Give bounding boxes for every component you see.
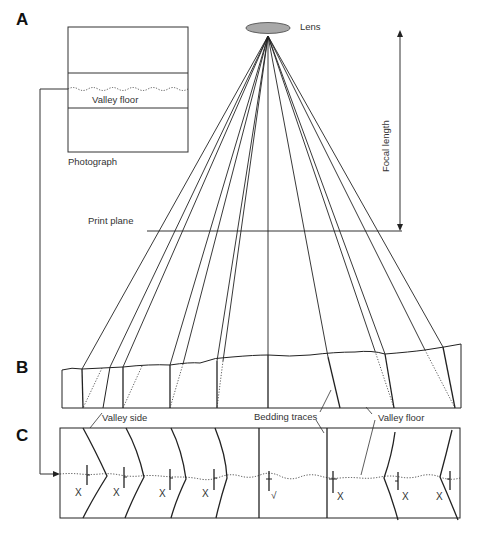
terrain-block-b: [62, 344, 461, 408]
ray-fan: [82, 36, 443, 369]
panel-label-c: C: [16, 426, 28, 446]
map-block-c: [60, 428, 460, 520]
photograph-label: Photograph: [68, 156, 117, 167]
arrow-up-icon: [397, 30, 403, 37]
arrowhead-icon: [53, 471, 60, 477]
focal-length-label: Focal length: [380, 120, 391, 172]
panel-label-b: B: [16, 358, 28, 378]
panel-label-a: A: [16, 10, 28, 30]
mark-x: X: [202, 488, 209, 499]
print-plane-label: Print plane: [88, 215, 133, 226]
mark-check: √: [271, 490, 277, 501]
valley-side-label: Valley side: [102, 412, 147, 423]
bedding-traces-label: Bedding traces: [254, 411, 317, 422]
photo-valley-floor-label: Valley floor: [92, 94, 138, 105]
arrow-down-icon: [397, 224, 403, 231]
lens-label: Lens: [300, 21, 321, 32]
valley-floor-label: Valley floor: [378, 412, 424, 423]
mark-x: X: [159, 488, 166, 499]
connector-arrow: [40, 89, 68, 474]
mark-x: X: [113, 487, 120, 498]
lens-icon: [246, 23, 290, 34]
mark-x: X: [402, 491, 409, 502]
photograph-box: [68, 27, 188, 152]
mark-x: X: [75, 487, 82, 498]
dotted-traces: [83, 350, 455, 408]
mark-x: X: [337, 491, 344, 502]
mark-x: X: [436, 491, 443, 502]
diagram-canvas: [0, 0, 480, 539]
leader-lines: [90, 390, 375, 475]
